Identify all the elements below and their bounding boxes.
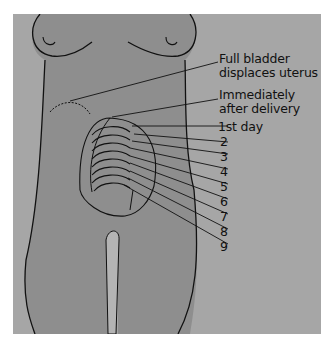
label-day-1: 1st day — [218, 120, 263, 134]
label-full-bladder-2: displaces uterus — [219, 66, 318, 80]
label-day-7: 7 — [220, 210, 228, 224]
label-day-5: 5 — [220, 180, 228, 194]
label-day-4: 4 — [220, 165, 228, 179]
leg-gap — [106, 231, 119, 334]
label-immediately-1: Immediately — [219, 88, 295, 102]
label-day-3: 3 — [220, 150, 228, 164]
label-day-6: 6 — [220, 195, 228, 209]
label-day-2: 2 — [220, 135, 228, 149]
label-day-9: 9 — [220, 240, 228, 254]
label-full-bladder-1: Full bladder — [219, 52, 290, 66]
label-day-8: 8 — [220, 225, 228, 239]
label-immediately-2: after delivery — [219, 102, 300, 116]
diagram-panel: Full bladder displaces uterus Immediatel… — [13, 14, 321, 334]
